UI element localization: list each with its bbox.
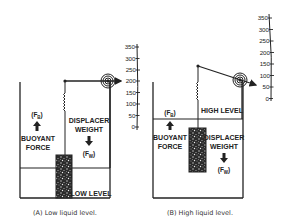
scale-a-tick-150: 150 <box>126 89 137 96</box>
scale-a-tick-350: 350 <box>125 43 136 50</box>
weight-symbol-b: (FW) <box>218 166 231 175</box>
displacer-level-diagram: (FB) BUOYANT FORCE DISPLACER WEIGHT (FW)… <box>0 0 294 224</box>
scale-b-tick-100: 100 <box>260 72 271 79</box>
down-arrow-icon-b <box>220 153 228 163</box>
force-label-a: FORCE <box>26 144 51 151</box>
scale-b-tick-250: 250 <box>259 37 270 44</box>
weight-label-a: WEIGHT <box>75 126 104 133</box>
panel-b-high-level: HIGH LEVEL (FB) BUOYANT FORCE DISPLACER … <box>153 14 274 217</box>
low-level-label: LOW LEVEL <box>71 190 113 197</box>
scale-b-tick-50: 50 <box>263 83 270 90</box>
torque-spiral-icon-a <box>101 74 115 88</box>
panel-a-low-level: (FB) BUOYANT FORCE DISPLACER WEIGHT (FW)… <box>20 43 140 217</box>
scale-a-tick-50: 50 <box>129 112 136 119</box>
caption-a: (A) Low liquid level. <box>33 209 97 217</box>
scale-a-tick-250: 250 <box>126 66 137 73</box>
torque-spiral-icon-b <box>233 73 247 87</box>
scale-b-tick-150: 150 <box>260 60 271 67</box>
scale-a-tick-100: 100 <box>126 100 137 107</box>
scale-a-tick-200: 200 <box>126 77 137 84</box>
caption-b: (B) High liquid level. <box>167 209 233 217</box>
force-label-b: FORCE <box>158 143 183 150</box>
high-level-label: HIGH LEVEL <box>201 107 244 114</box>
scale-b: 350 300 250 200 150 100 50 0 <box>258 14 274 102</box>
buoyant-label-a: BUOYANT <box>21 135 56 142</box>
buoyant-symbol-a: (FB) <box>31 111 43 120</box>
weight-symbol-a: (FW) <box>83 150 96 159</box>
up-arrow-icon-b <box>166 121 174 130</box>
buoyant-symbol-b: (FB) <box>164 109 176 118</box>
scale-a-tick-300: 300 <box>125 55 136 62</box>
weight-label-b: WEIGHT <box>210 143 239 150</box>
displacer-label-b: DISPLACER <box>204 134 244 141</box>
scale-b-tick-350: 350 <box>258 14 269 21</box>
scale-a: 350 300 250 200 150 100 50 0 <box>125 43 140 130</box>
buoyant-label-b: BUOYANT <box>153 134 188 141</box>
scale-b-tick-300: 300 <box>259 26 270 33</box>
scale-b-tick-200: 200 <box>260 49 271 56</box>
displacer-label-a: DISPLACER <box>69 117 109 124</box>
spring-icon-a <box>64 81 66 155</box>
down-arrow-icon-a <box>85 136 93 146</box>
scale-b-tick-0: 0 <box>266 95 270 102</box>
scale-a-tick-0: 0 <box>132 123 136 130</box>
up-arrow-icon-a <box>33 121 41 131</box>
beam-b <box>198 66 256 85</box>
